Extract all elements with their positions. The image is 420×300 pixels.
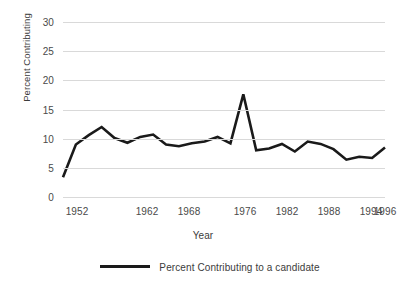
x-axis-title: Year [0, 230, 420, 241]
plot-area [63, 22, 385, 197]
y-tick-label-10: 10 [10, 133, 54, 144]
gridline-30 [63, 22, 385, 23]
legend-item-label: Percent Contributing to a candidate [159, 262, 319, 273]
gridline-5 [63, 168, 385, 169]
series-line-percent-contributing [63, 94, 385, 177]
y-tick-label-5: 5 [10, 162, 54, 173]
gridline-25 [63, 51, 385, 52]
x-tick-label-1968: 1968 [178, 206, 201, 217]
x-tick-label-1982: 1982 [276, 206, 299, 217]
y-tick-label-20: 20 [10, 75, 54, 86]
gridline-20 [63, 80, 385, 81]
x-tick-label-1962: 1962 [136, 206, 159, 217]
gridline-10 [63, 139, 385, 140]
chart-legend: Percent Contributing to a candidate [0, 262, 420, 273]
legend-line-swatch [100, 265, 150, 268]
y-axis-tick-labels: 302520151050 [8, 0, 54, 300]
y-tick-label-0: 0 [10, 192, 54, 203]
x-tick-label-1952: 1952 [66, 206, 89, 217]
gridline-0 [63, 197, 385, 198]
y-tick-label-15: 15 [10, 104, 54, 115]
x-tick-label-1988: 1988 [318, 206, 341, 217]
line-chart: Percent Contributing 302520151050 195219… [0, 0, 420, 300]
gridline-15 [63, 110, 385, 111]
y-tick-label-30: 30 [10, 17, 54, 28]
y-tick-label-25: 25 [10, 46, 54, 57]
x-axis-tick-labels: 19521962196819761982198819941996 [0, 206, 420, 222]
x-axis-title-text: Year [193, 230, 214, 241]
x-tick-label-1976: 1976 [234, 206, 257, 217]
x-tick-label-1996: 1996 [374, 206, 397, 217]
